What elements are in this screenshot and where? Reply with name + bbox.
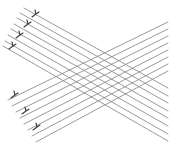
descending-line-set [3,8,168,141]
ascending-line-4 [24,50,168,124]
ascending-line-5 [28,57,168,130]
fork-marker-icon [9,42,16,49]
ascending-line-1 [12,29,168,106]
ascending-line-2 [16,36,168,112]
descending-line-0 [24,8,168,88]
descending-line-7 [3,46,168,141]
ascending-line-set [8,22,168,142]
descending-line-4 [11,29,168,118]
fork-marker-icon [24,20,31,27]
line-crossing-diagram [0,0,182,156]
